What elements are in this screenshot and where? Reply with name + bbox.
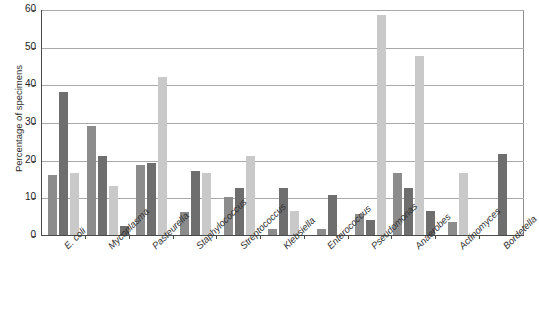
bar xyxy=(109,186,118,235)
x-label-cell: E. coli xyxy=(41,240,85,319)
x-label-cell: Klebsiella xyxy=(261,240,305,319)
bar xyxy=(459,173,468,235)
y-tick-mark xyxy=(32,236,36,237)
bar-group xyxy=(305,10,349,235)
bar xyxy=(158,77,167,235)
bar xyxy=(87,126,96,235)
bar xyxy=(98,156,107,235)
x-label-cell: Enterococcus xyxy=(304,240,348,319)
x-label-cell: Pseudomonas xyxy=(348,240,392,319)
y-tick-mark xyxy=(32,85,36,86)
y-tick-label: 0 xyxy=(12,230,36,240)
x-label-cell: Actinomyces xyxy=(436,240,480,319)
bar-group xyxy=(480,10,524,235)
y-tick-label: 10 xyxy=(12,192,36,202)
x-tick-mark xyxy=(304,235,305,239)
bar xyxy=(268,229,277,235)
bar-group xyxy=(42,10,86,235)
x-label-cell: Anaerobes xyxy=(392,240,436,319)
bar-group xyxy=(349,10,393,235)
bar xyxy=(246,156,255,235)
bar xyxy=(377,15,386,235)
plot-area xyxy=(41,10,524,236)
bar-group xyxy=(436,10,480,235)
y-tick-mark xyxy=(32,123,36,124)
y-tick-label: 50 xyxy=(12,42,36,52)
y-tick-mark xyxy=(32,198,36,199)
y-tick-label: 20 xyxy=(12,155,36,165)
bar xyxy=(191,171,200,235)
x-label-cell: Pasteurella xyxy=(129,240,173,319)
bar-group xyxy=(130,10,174,235)
bar-group xyxy=(261,10,305,235)
x-axis-labels: E. coliMycoplasmaPasteurellaStaphylococc… xyxy=(41,240,524,319)
y-tick-mark xyxy=(32,10,36,11)
y-tick-mark xyxy=(32,161,36,162)
y-tick-label: 40 xyxy=(12,79,36,89)
bar xyxy=(317,229,326,235)
bar xyxy=(328,195,337,235)
bar xyxy=(59,92,68,235)
bar-group xyxy=(174,10,218,235)
bar xyxy=(448,222,457,235)
y-tick-label: 30 xyxy=(12,117,36,127)
bar-group xyxy=(86,10,130,235)
bar-groups xyxy=(42,10,524,235)
y-axis-tick-labels: 0102030405060 xyxy=(10,0,36,319)
x-label-cell: Mycoplasma xyxy=(85,240,129,319)
bar-group xyxy=(392,10,436,235)
x-label-cell: Staphylococcus xyxy=(173,240,217,319)
bar xyxy=(48,175,57,235)
bar xyxy=(147,163,156,235)
x-label-cell: Bordetella xyxy=(480,240,524,319)
bar xyxy=(498,154,507,235)
y-tick-label: 60 xyxy=(12,4,36,14)
y-tick-mark xyxy=(32,48,36,49)
x-label-cell: Streptococcus xyxy=(217,240,261,319)
bar xyxy=(366,220,375,235)
